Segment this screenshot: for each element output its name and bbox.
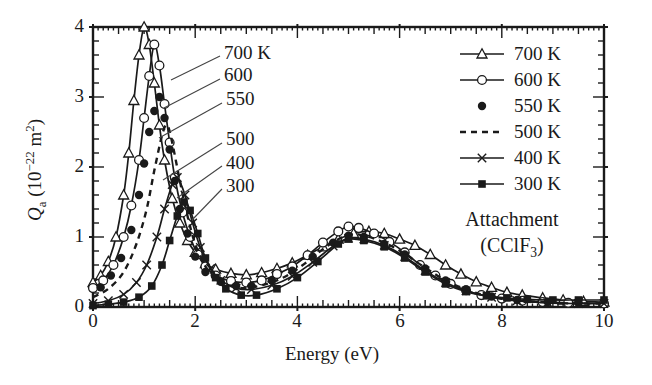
x-tick-label-2: 2 xyxy=(177,311,213,331)
legend-label: 700 K xyxy=(506,43,561,65)
attachment-cross-section-figure: 0 2 4 6 8 10 0 1 2 3 4 Energy (eV) Qa (1… xyxy=(0,0,652,385)
legend-label: 300 K xyxy=(506,173,561,195)
legend-x-icon xyxy=(458,149,506,167)
y-axis-unit-open: (10 xyxy=(24,171,45,201)
legend-item-700k: 700 K xyxy=(458,41,561,67)
x-axis-label: Energy (eV) xyxy=(262,343,402,365)
y-axis-unit-exponent: −22 xyxy=(22,151,37,171)
curve-label-600k: 600 xyxy=(224,64,253,86)
y-tick-label-4: 4 xyxy=(54,16,84,36)
y-tick-label-2: 2 xyxy=(54,156,84,176)
legend-label: 600 K xyxy=(506,69,561,91)
x-tick-label-8: 8 xyxy=(484,311,520,331)
legend-label: 400 K xyxy=(506,147,561,169)
process-annotation: Attachment (CClF3) xyxy=(437,206,587,262)
y-axis-symbol-subscript: a xyxy=(34,202,49,208)
legend: 700 K600 K550 K500 K400 K300 K xyxy=(458,41,561,197)
legend-item-550k: 550 K xyxy=(458,93,561,119)
legend-dashed-line-icon xyxy=(458,123,506,141)
x-tick-label-4: 4 xyxy=(279,311,315,331)
legend-circle-open-icon xyxy=(458,71,506,89)
y-axis-unit-exponent2: 2 xyxy=(22,125,37,131)
x-tick-label-6: 6 xyxy=(382,311,418,331)
curve-label-300k: 300 xyxy=(226,175,255,197)
y-tick-label-0: 0 xyxy=(54,296,84,316)
x-tick-label-10: 10 xyxy=(586,311,622,331)
legend-label: 500 K xyxy=(506,121,561,143)
curve-label-400k: 400 xyxy=(226,152,255,174)
y-axis-unit-close: ) xyxy=(24,119,45,125)
process-annotation-line1: Attachment xyxy=(437,206,587,232)
legend-circle-filled-icon xyxy=(458,97,506,115)
legend-label: 550 K xyxy=(506,95,561,117)
y-tick-label-1: 1 xyxy=(54,226,84,246)
curve-label-500k: 500 xyxy=(226,128,255,150)
y-axis-symbol: Q xyxy=(24,207,45,221)
y-tick-label-3: 3 xyxy=(54,86,84,106)
legend-triangle-open-icon xyxy=(458,45,506,63)
y-axis-label: Qa (10−22 m2) xyxy=(22,119,50,221)
curve-label-550k: 550 xyxy=(226,88,255,110)
legend-square-filled-icon xyxy=(458,175,506,193)
curve-label-700k: 700 K xyxy=(224,42,271,64)
legend-item-600k: 600 K xyxy=(458,67,561,93)
legend-item-500k: 500 K xyxy=(458,119,561,145)
process-annotation-formula: (CClF3) xyxy=(437,232,587,262)
legend-item-300k: 300 K xyxy=(458,171,561,197)
legend-item-400k: 400 K xyxy=(458,145,561,171)
y-axis-unit-body: m xyxy=(24,132,45,152)
